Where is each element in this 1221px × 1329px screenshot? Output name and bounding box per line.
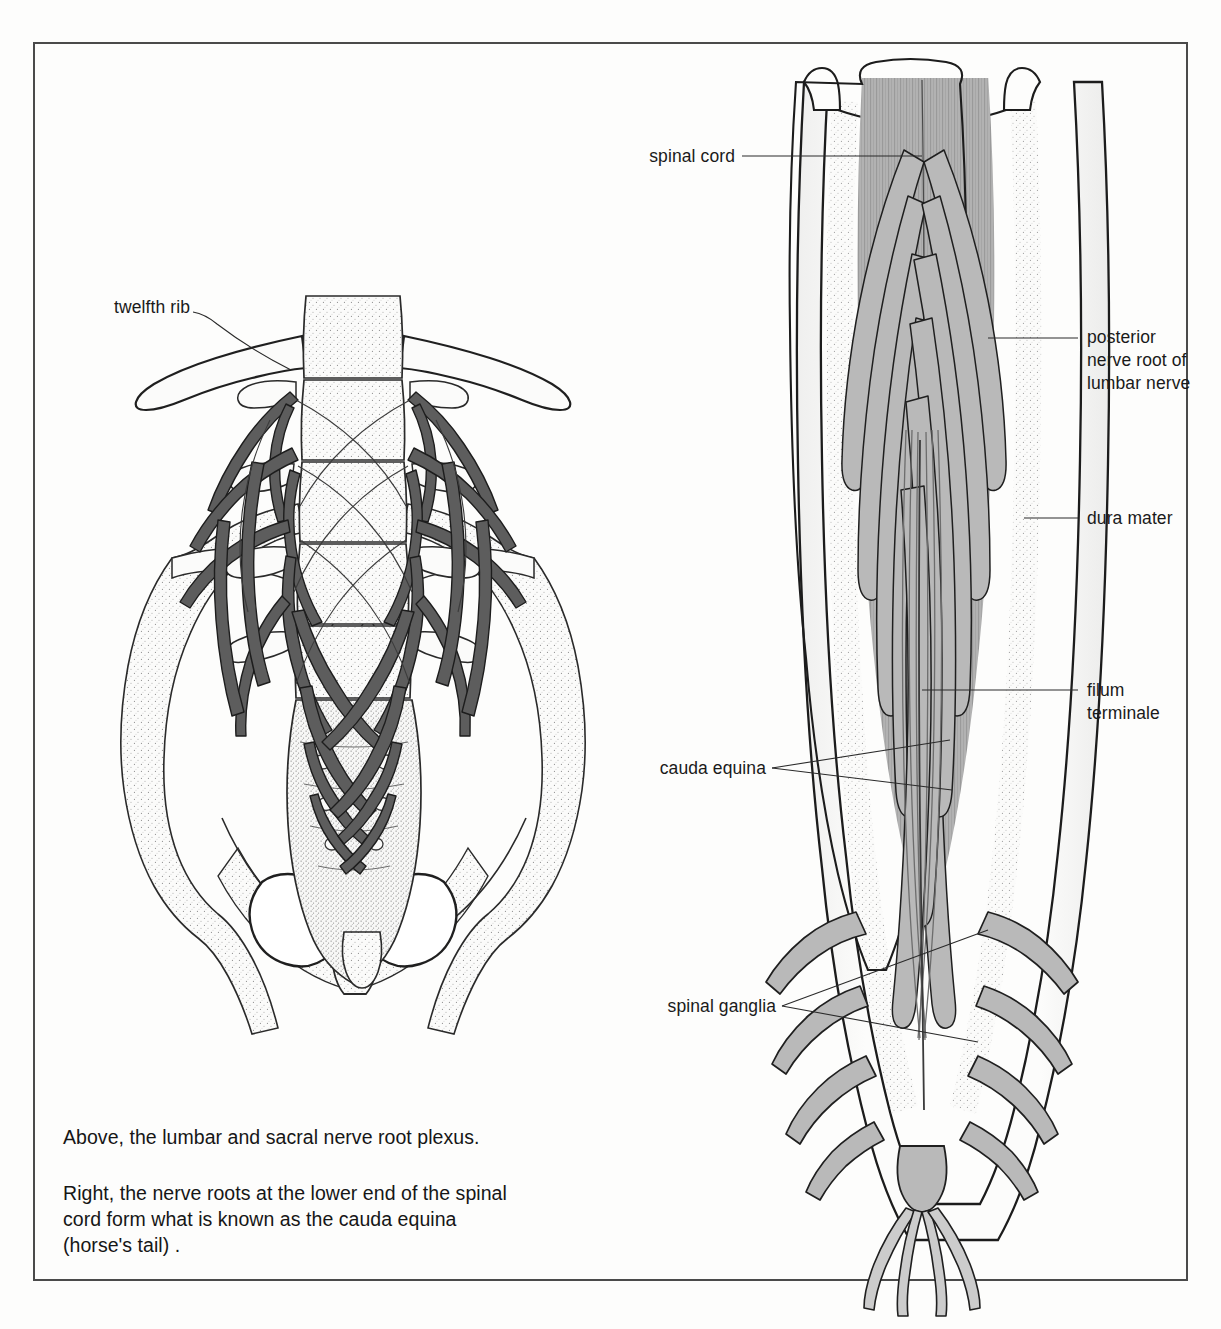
- label-dura-mater: dura mater: [1087, 507, 1217, 530]
- label-spinal-ganglia: spinal ganglia: [580, 995, 776, 1018]
- label-twelfth-rib: twelfth rib: [20, 296, 190, 319]
- label-filum-terminale: filum terminale: [1087, 679, 1207, 725]
- label-posterior-nerve-root: posterior nerve root of lumbar nerve: [1087, 326, 1217, 395]
- label-spinal-cord: spinal cord: [560, 145, 735, 168]
- label-cauda-equina: cauda equina: [580, 757, 766, 780]
- caption-right: Right, the nerve roots at the lower end …: [63, 1180, 507, 1258]
- figure-lumbar-sacral-plexus: [121, 296, 585, 1034]
- caption-above: Above, the lumbar and sacral nerve root …: [63, 1124, 479, 1150]
- figure-cauda-equina: [742, 59, 1109, 1316]
- plate-page: twelfth rib spinal cord posterior nerve …: [0, 0, 1221, 1329]
